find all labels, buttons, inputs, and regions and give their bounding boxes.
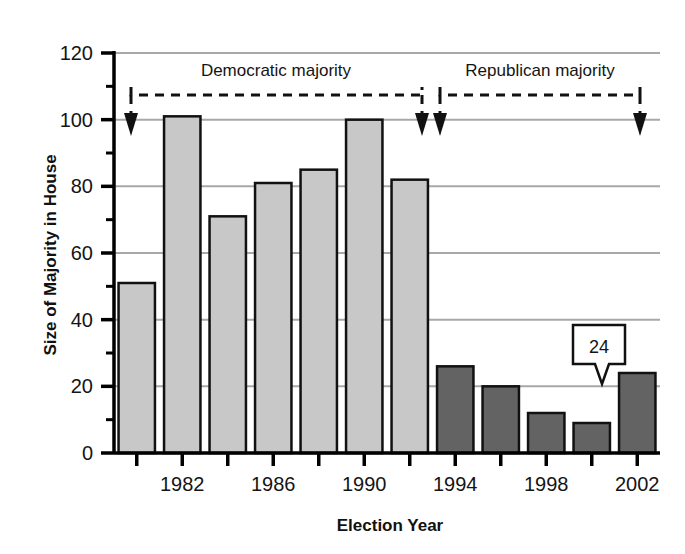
x-tick-label: 1982 xyxy=(160,473,205,495)
y-tick-label: 120 xyxy=(60,42,93,64)
bar xyxy=(164,116,200,453)
y-tick-label: 40 xyxy=(71,309,93,331)
bar xyxy=(574,423,610,453)
y-tick-label: 0 xyxy=(82,442,93,464)
bar xyxy=(346,120,382,453)
bar xyxy=(437,366,473,453)
bar xyxy=(483,386,519,453)
x-tick-label: 2002 xyxy=(615,473,660,495)
x-tick-label: 1998 xyxy=(524,473,569,495)
bar xyxy=(119,283,155,453)
y-tick-label: 80 xyxy=(71,175,93,197)
y-tick-label: 100 xyxy=(60,109,93,131)
y-tick-label: 60 xyxy=(71,242,93,264)
callout-value: 24 xyxy=(589,337,609,357)
bar xyxy=(392,180,428,453)
democratic-majority-label: Democratic majority xyxy=(201,61,352,80)
bar-chart-figure: 020406080100120 198219861990199419982002… xyxy=(0,0,685,554)
bar xyxy=(301,170,337,453)
x-axis-title: Election Year xyxy=(337,516,444,535)
bar xyxy=(619,373,655,453)
republican-majority-label: Republican majority xyxy=(465,61,615,80)
bar xyxy=(210,216,246,453)
x-tick-label: 1986 xyxy=(251,473,296,495)
bar xyxy=(255,183,291,453)
bar xyxy=(528,413,564,453)
x-tick-label: 1990 xyxy=(342,473,387,495)
y-tick-label: 20 xyxy=(71,375,93,397)
x-tick-label: 1994 xyxy=(433,473,478,495)
chart-background xyxy=(0,0,685,554)
chart-canvas: 020406080100120 198219861990199419982002… xyxy=(0,0,685,554)
y-axis-title: Size of Majority in House xyxy=(41,154,60,355)
